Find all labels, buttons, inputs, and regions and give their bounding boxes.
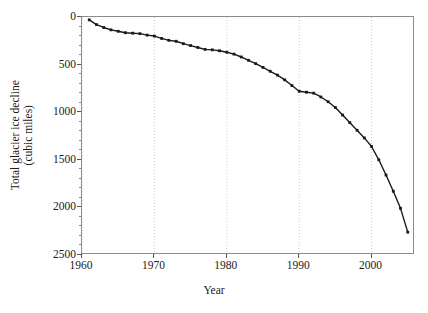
y-minor-tick-mark bbox=[79, 26, 81, 27]
data-series-line bbox=[89, 20, 408, 232]
y-minor-tick-mark bbox=[79, 45, 81, 46]
y-minor-tick-mark bbox=[79, 244, 81, 245]
data-point-marker bbox=[291, 84, 294, 87]
x-tick-mark bbox=[153, 254, 154, 258]
y-minor-tick-mark bbox=[79, 92, 81, 93]
data-point-marker bbox=[189, 44, 192, 47]
y-tick-label: 1000 bbox=[53, 105, 76, 117]
y-minor-tick-mark bbox=[79, 130, 81, 131]
y-minor-tick-mark bbox=[79, 54, 81, 55]
x-tick-label: 1960 bbox=[70, 259, 93, 271]
data-point-marker bbox=[312, 92, 315, 95]
data-point-marker bbox=[283, 78, 286, 81]
y-minor-tick-mark bbox=[79, 35, 81, 36]
y-minor-tick-mark bbox=[79, 73, 81, 74]
data-point-marker bbox=[377, 158, 380, 161]
data-point-marker bbox=[124, 31, 127, 34]
plot-area bbox=[81, 16, 414, 254]
data-point-marker bbox=[406, 231, 409, 234]
data-point-marker bbox=[305, 91, 308, 94]
data-point-marker bbox=[182, 42, 185, 45]
data-point-marker bbox=[327, 100, 330, 103]
y-minor-tick-mark bbox=[79, 168, 81, 169]
data-point-marker bbox=[233, 53, 236, 56]
y-tick-mark bbox=[77, 206, 81, 207]
y-minor-tick-mark bbox=[79, 102, 81, 103]
data-point-marker bbox=[399, 207, 402, 210]
y-minor-tick-mark bbox=[79, 83, 81, 84]
y-minor-tick-mark bbox=[79, 187, 81, 188]
y-tick-mark bbox=[77, 16, 81, 17]
y-tick-label: 0 bbox=[70, 10, 76, 22]
series-line-layer bbox=[82, 17, 415, 255]
y-tick-mark bbox=[77, 111, 81, 112]
y-tick-mark bbox=[77, 159, 81, 160]
data-point-marker bbox=[392, 190, 395, 193]
y-minor-tick-mark bbox=[79, 197, 81, 198]
data-point-marker bbox=[247, 59, 250, 62]
x-tick-mark bbox=[371, 254, 372, 258]
y-minor-tick-mark bbox=[79, 149, 81, 150]
y-tick-mark bbox=[77, 64, 81, 65]
data-point-marker bbox=[139, 32, 142, 35]
data-point-marker bbox=[341, 114, 344, 117]
x-tick-label: 1970 bbox=[142, 259, 165, 271]
data-point-marker bbox=[276, 74, 279, 77]
data-point-marker bbox=[102, 26, 105, 29]
data-point-marker bbox=[334, 106, 337, 109]
data-point-marker bbox=[167, 39, 170, 42]
y-tick-label: 500 bbox=[59, 58, 76, 70]
data-point-marker bbox=[204, 48, 207, 51]
data-point-marker bbox=[348, 121, 351, 124]
x-tick-label: 1990 bbox=[287, 259, 310, 271]
data-point-marker bbox=[363, 137, 366, 140]
y-tick-label: 1500 bbox=[53, 153, 76, 165]
y-axis-title-line1: Total glacier ice decline bbox=[9, 80, 21, 190]
data-point-marker bbox=[175, 40, 178, 43]
data-point-marker bbox=[88, 18, 91, 21]
x-tick-mark bbox=[226, 254, 227, 258]
data-point-marker bbox=[131, 32, 134, 35]
data-point-marker bbox=[370, 145, 373, 148]
data-point-marker bbox=[262, 66, 265, 69]
data-point-marker bbox=[269, 70, 272, 73]
y-minor-tick-mark bbox=[79, 121, 81, 122]
data-point-marker bbox=[385, 174, 388, 177]
data-point-marker bbox=[356, 129, 359, 132]
x-tick-mark bbox=[298, 254, 299, 258]
x-tick-mark bbox=[81, 254, 82, 258]
y-minor-tick-mark bbox=[79, 178, 81, 179]
y-tick-label: 2000 bbox=[53, 200, 76, 212]
y-minor-tick-mark bbox=[79, 216, 81, 217]
data-point-marker bbox=[319, 96, 322, 99]
data-point-marker bbox=[117, 30, 120, 33]
data-point-marker bbox=[95, 23, 98, 26]
data-point-marker bbox=[240, 56, 243, 59]
y-minor-tick-mark bbox=[79, 225, 81, 226]
y-axis-title-line2: (cubic miles) bbox=[22, 80, 35, 190]
data-point-marker bbox=[218, 49, 221, 52]
data-point-marker bbox=[146, 34, 149, 37]
y-minor-tick-mark bbox=[79, 235, 81, 236]
data-point-marker bbox=[254, 62, 257, 65]
data-point-marker bbox=[211, 48, 214, 51]
data-point-marker bbox=[153, 35, 156, 38]
y-minor-tick-mark bbox=[79, 140, 81, 141]
glacier-ice-decline-chart: Total glacier ice decline (cubic miles) … bbox=[0, 0, 428, 313]
x-tick-label: 1980 bbox=[214, 259, 237, 271]
data-point-marker bbox=[160, 37, 163, 40]
x-axis-title: Year bbox=[0, 284, 428, 296]
data-point-marker bbox=[298, 90, 301, 93]
x-tick-label: 2000 bbox=[359, 259, 382, 271]
data-point-marker bbox=[196, 46, 199, 49]
data-point-marker bbox=[225, 51, 228, 54]
data-point-marker bbox=[110, 28, 113, 31]
